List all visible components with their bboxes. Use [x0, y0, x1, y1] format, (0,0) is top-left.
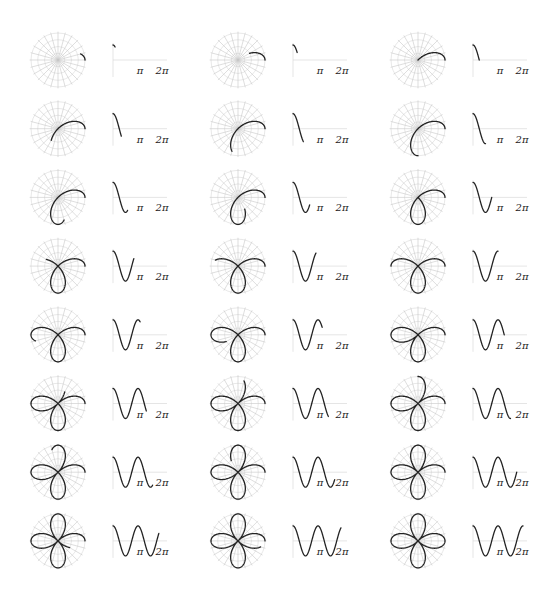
- pi-tick-label: π: [496, 477, 504, 488]
- frame-24: π2π: [390, 513, 529, 570]
- frame-16: π2π: [30, 375, 169, 432]
- polar-plot: [390, 306, 447, 363]
- pi-tick-label: π: [316, 134, 324, 145]
- polar-plot: [30, 169, 87, 226]
- frame-17: π2π: [210, 375, 349, 432]
- two-pi-tick-label: 2π: [335, 65, 349, 76]
- cartesian-plot: π2π: [293, 455, 349, 489]
- pi-tick-label: π: [496, 546, 504, 557]
- figure-canvas: π2ππ2ππ2ππ2ππ2ππ2ππ2ππ2ππ2ππ2ππ2ππ2ππ2ππ…: [0, 0, 533, 599]
- frame-20: π2π: [210, 444, 349, 501]
- frame-8: π2π: [210, 169, 349, 226]
- pi-tick-label: π: [316, 409, 324, 420]
- cartesian-graph-curve: [113, 114, 121, 137]
- polar-plot: [390, 513, 447, 570]
- two-pi-tick-label: 2π: [335, 546, 349, 557]
- cartesian-graph-curve: [293, 45, 297, 53]
- polar-plot: [210, 513, 267, 570]
- frame-4: π2π: [30, 100, 169, 157]
- frame-18: π2π: [390, 375, 529, 432]
- frame-22: π2π: [30, 513, 169, 570]
- polar-plot: [210, 100, 267, 157]
- two-pi-tick-label: 2π: [155, 477, 169, 488]
- frame-3: π2π: [390, 32, 529, 89]
- pi-tick-label: π: [496, 409, 504, 420]
- polar-plot: [390, 375, 447, 432]
- frame-13: π2π: [30, 306, 169, 363]
- polar-rose-curve: [215, 259, 265, 293]
- frame-5: π2π: [210, 100, 349, 157]
- two-pi-tick-label: 2π: [335, 477, 349, 488]
- two-pi-tick-label: 2π: [515, 340, 529, 351]
- pi-tick-label: π: [496, 202, 504, 213]
- polar-plot: [210, 444, 267, 501]
- cartesian-plot: π2π: [473, 318, 529, 352]
- polar-plot: [210, 169, 267, 226]
- pi-tick-label: π: [316, 271, 324, 282]
- polar-plot: [30, 444, 87, 501]
- cartesian-plot: π2π: [113, 43, 169, 77]
- two-pi-tick-label: 2π: [155, 134, 169, 145]
- cartesian-plot: π2π: [113, 455, 169, 489]
- cartesian-plot: π2π: [473, 112, 529, 146]
- cartesian-plot: π2π: [293, 180, 349, 214]
- frame-11: π2π: [210, 238, 349, 295]
- cartesian-plot: π2π: [113, 524, 169, 558]
- two-pi-tick-label: 2π: [155, 65, 169, 76]
- polar-plot: [390, 169, 447, 226]
- cartesian-plot: π2π: [113, 112, 169, 146]
- cartesian-plot: π2π: [293, 318, 349, 352]
- two-pi-tick-label: 2π: [155, 340, 169, 351]
- pi-tick-label: π: [136, 65, 144, 76]
- pi-tick-label: π: [496, 271, 504, 282]
- polar-plot: [30, 306, 87, 363]
- pi-tick-label: π: [136, 340, 144, 351]
- two-pi-tick-label: 2π: [515, 202, 529, 213]
- two-pi-tick-label: 2π: [515, 546, 529, 557]
- two-pi-tick-label: 2π: [515, 65, 529, 76]
- cartesian-plot: π2π: [473, 43, 529, 77]
- cartesian-plot: π2π: [113, 180, 169, 214]
- pi-tick-label: π: [316, 477, 324, 488]
- frame-23: π2π: [210, 513, 349, 570]
- two-pi-tick-label: 2π: [155, 546, 169, 557]
- polar-plot: [210, 375, 267, 432]
- two-pi-tick-label: 2π: [335, 409, 349, 420]
- cartesian-plot: π2π: [293, 43, 349, 77]
- cartesian-plot: π2π: [293, 387, 349, 421]
- cartesian-plot: π2π: [293, 524, 349, 558]
- pi-tick-label: π: [136, 202, 144, 213]
- two-pi-tick-label: 2π: [515, 409, 529, 420]
- frame-6: π2π: [390, 100, 529, 157]
- two-pi-tick-label: 2π: [515, 477, 529, 488]
- cartesian-plot: π2π: [473, 387, 529, 421]
- cartesian-plot: π2π: [473, 249, 529, 283]
- polar-plot: [390, 238, 447, 295]
- two-pi-tick-label: 2π: [155, 409, 169, 420]
- pi-tick-label: π: [136, 546, 144, 557]
- cartesian-plot: π2π: [473, 455, 529, 489]
- cartesian-plot: π2π: [293, 249, 349, 283]
- pi-tick-label: π: [316, 340, 324, 351]
- cartesian-graph-curve: [473, 45, 479, 60]
- polar-plot: [390, 32, 447, 89]
- cartesian-plot: π2π: [293, 112, 349, 146]
- two-pi-tick-label: 2π: [155, 202, 169, 213]
- pi-tick-label: π: [316, 202, 324, 213]
- cartesian-plot: π2π: [473, 524, 529, 558]
- frame-15: π2π: [390, 306, 529, 363]
- polar-plot: [210, 306, 267, 363]
- polar-plot: [30, 100, 87, 157]
- frame-14: π2π: [210, 306, 349, 363]
- cartesian-plot: π2π: [113, 249, 169, 283]
- two-pi-tick-label: 2π: [335, 271, 349, 282]
- cartesian-plot: π2π: [473, 180, 529, 214]
- polar-plot: [30, 513, 87, 570]
- pi-tick-label: π: [496, 340, 504, 351]
- frame-19: π2π: [30, 444, 169, 501]
- cartesian-graph-curve: [293, 114, 303, 142]
- frame-2: π2π: [210, 32, 349, 89]
- frame-10: π2π: [30, 238, 169, 295]
- polar-plot: [30, 375, 87, 432]
- polar-plot: [390, 100, 447, 157]
